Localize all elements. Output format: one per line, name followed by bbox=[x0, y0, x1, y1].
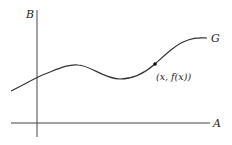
vertical-axis-label: B bbox=[25, 8, 34, 21]
diagram-canvas: B A G (x, f(x)) bbox=[0, 0, 232, 145]
function-curve bbox=[11, 38, 207, 91]
curve-label: G bbox=[211, 32, 220, 45]
point-label: (x, f(x)) bbox=[156, 71, 191, 82]
horizontal-axis-label: A bbox=[212, 117, 221, 130]
curve-point bbox=[153, 62, 157, 66]
